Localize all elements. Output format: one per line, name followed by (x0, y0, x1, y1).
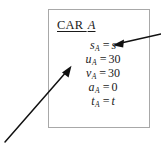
equation-value: s (111, 38, 116, 52)
figure-canvas: CAR A sA=s uA=30 vA=30 aA=0 tA=t (0, 0, 161, 146)
equation-operator: = (101, 94, 112, 108)
car-a-title-word: CAR (57, 18, 87, 32)
equation-operator: = (101, 80, 112, 94)
equation-value: 30 (108, 66, 120, 80)
equation-row: sA=s (49, 38, 151, 52)
equation-variable: s (90, 38, 95, 52)
car-a-title: CAR A (57, 18, 95, 33)
equation-operator: = (101, 38, 112, 52)
equation-value: t (111, 94, 114, 108)
equation-value: 30 (108, 52, 120, 66)
equation-variable: a (89, 80, 95, 94)
equation-row: aA=0 (49, 80, 151, 94)
equation-operator: = (97, 66, 108, 80)
car-a-box: CAR A sA=s uA=30 vA=30 aA=0 tA=t (48, 9, 150, 128)
equation-row: tA=t (49, 94, 151, 108)
equation-value: 0 (111, 80, 117, 94)
bottom-caption (6, 138, 156, 146)
car-a-title-label: A (87, 18, 96, 32)
equation-list: sA=s uA=30 vA=30 aA=0 tA=t (49, 38, 151, 108)
equation-row: uA=30 (49, 52, 151, 66)
equation-variable: u (86, 52, 92, 66)
equation-subscript: A (95, 100, 101, 109)
equation-row: vA=30 (49, 66, 151, 80)
equation-operator: = (98, 52, 109, 66)
